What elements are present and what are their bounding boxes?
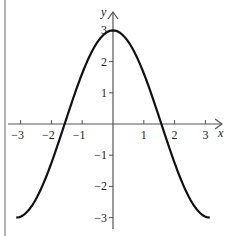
x-tick-label: 1 bbox=[141, 128, 147, 142]
x-tick-label: 2 bbox=[172, 128, 178, 142]
x-tick-label: −3 bbox=[11, 128, 24, 142]
y-tick-label: 2 bbox=[101, 55, 107, 69]
x-tick-label: −1 bbox=[73, 128, 86, 142]
y-tick-label: −1 bbox=[94, 148, 107, 162]
x-tick-label: 3 bbox=[202, 128, 208, 142]
y-tick-label: 1 bbox=[101, 86, 107, 100]
y-tick-label: −3 bbox=[94, 211, 107, 225]
axes bbox=[8, 12, 222, 229]
x-axis-label: x bbox=[217, 126, 224, 140]
cosine-chart: −3−2−1123321−1−2−3 x y bbox=[0, 0, 231, 236]
x-tick-label: −2 bbox=[42, 128, 55, 142]
y-axis-label: y bbox=[100, 5, 107, 19]
y-tick-label: −2 bbox=[94, 179, 107, 193]
